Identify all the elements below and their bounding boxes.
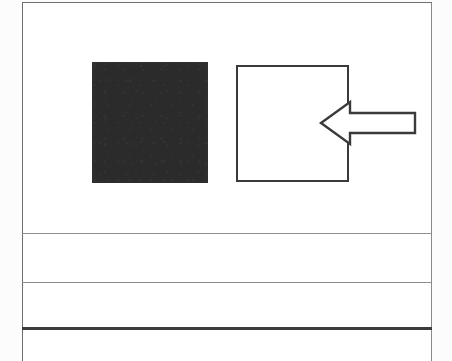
illustration-panel [22,2,432,234]
ruled-row-2 [22,283,432,327]
filled-square-shape [92,62,208,183]
left-arrow-outline [321,102,415,144]
scanned-figure-page [0,0,452,361]
ruled-row-3 [22,330,432,361]
ruled-row-1 [22,234,432,282]
left-arrow-icon [318,96,418,150]
